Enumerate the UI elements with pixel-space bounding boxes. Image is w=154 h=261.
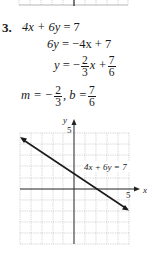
axes xyxy=(20,122,137,244)
fraction-slope: 23 xyxy=(81,55,89,78)
equation-step-3: y = −23x +76 xyxy=(54,55,117,78)
problem-number: 3. xyxy=(2,20,12,36)
fraction-b: 76 xyxy=(88,85,96,108)
slope-intercept-result: m = −23, b =76 xyxy=(21,85,97,108)
fraction-m: 23 xyxy=(54,85,62,108)
y-axis-label: y xyxy=(62,118,67,125)
y-axis-arrow-icon xyxy=(72,119,77,125)
line-graph: x y 5 5 4x + 6y = 7 xyxy=(0,118,154,261)
y-tick-label: 5 xyxy=(67,125,72,135)
x-tick-label: 5 xyxy=(126,190,131,200)
equation-step-1: 4x + 6y = 7 xyxy=(22,20,80,35)
x-axis-arrow-icon xyxy=(134,187,140,192)
fraction-intercept: 76 xyxy=(108,55,116,78)
x-axis-label: x xyxy=(142,185,147,195)
previous-graph-fragment xyxy=(18,0,130,6)
line-equation-label: 4x + 6y = 7 xyxy=(84,162,127,172)
equation-step-2: 6y = −4x + 7 xyxy=(47,37,111,52)
